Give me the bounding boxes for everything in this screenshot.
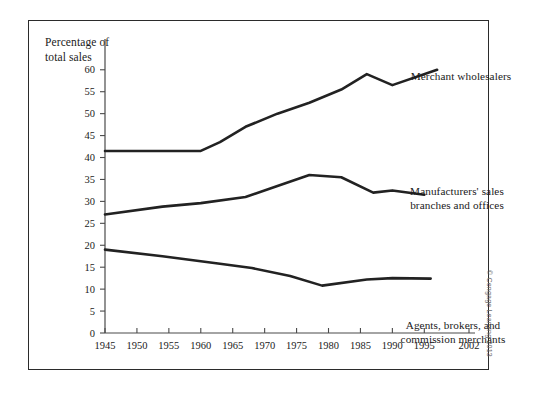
x-tick-label: 1950 <box>126 340 147 351</box>
copyright-credit: © Cengage Learning 2013 <box>486 270 493 357</box>
y-tick-label: 20 <box>85 240 96 251</box>
series-label-manufacturers-sales-branches: Manufacturers' sales branches and office… <box>387 184 527 212</box>
y-tick-label: 40 <box>85 152 96 163</box>
y-tick-label: 0 <box>90 328 95 339</box>
x-tick-label: 1985 <box>350 340 371 351</box>
figure-frame: Percentage of total sales 05101520253035… <box>28 20 489 370</box>
y-tick-label: 60 <box>85 64 96 75</box>
x-tick-label: 1960 <box>190 340 211 351</box>
y-tick-label: 15 <box>85 262 96 273</box>
x-tick-label: 1955 <box>158 340 179 351</box>
series-line-2 <box>105 250 431 286</box>
series-label-merchant-wholesalers: Merchant wholesalers <box>397 69 525 83</box>
y-tick-label: 35 <box>85 174 96 185</box>
x-tick-label: 1970 <box>254 340 275 351</box>
x-tick-label: 1975 <box>286 340 307 351</box>
series-label-agents-brokers: Agents, brokers, and commission merchant… <box>377 318 529 346</box>
y-tick-label: 55 <box>85 86 96 97</box>
x-tick-label: 1945 <box>95 340 116 351</box>
y-tick-label: 10 <box>85 284 96 295</box>
x-tick-label: 1965 <box>222 340 243 351</box>
series-line-1 <box>105 175 424 214</box>
y-tick-label: 5 <box>90 306 95 317</box>
x-tick-label: 1980 <box>318 340 339 351</box>
y-tick-label: 30 <box>85 196 96 207</box>
y-tick-label: 45 <box>85 130 96 141</box>
y-tick-label: 25 <box>85 218 96 229</box>
series-line-0 <box>105 70 437 151</box>
y-tick-label: 50 <box>85 108 96 119</box>
